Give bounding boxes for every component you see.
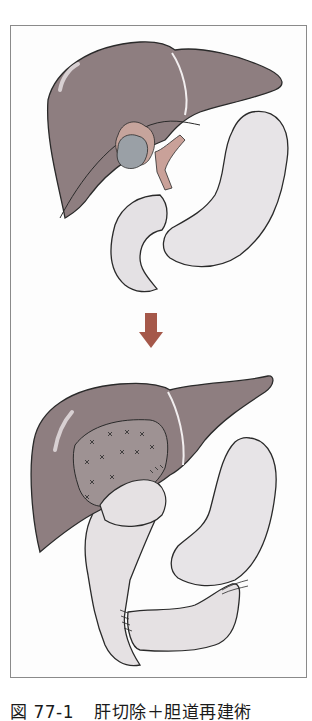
bile-duct [155,135,185,190]
figure-title: 肝切除＋胆道再建術 [94,702,252,721]
down-arrow-icon [139,313,163,348]
duodenum-before [111,195,167,292]
figure-caption: 図 77-1肝切除＋胆道再建術 [10,698,252,721]
tumor [117,135,148,169]
before-panel [48,42,288,292]
stomach-before [163,111,287,266]
figure-number: 図 77-1 [10,702,74,721]
after-panel [31,376,276,666]
surgical-illustration [0,0,312,690]
